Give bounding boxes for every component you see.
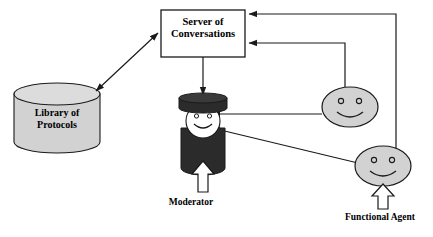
diagram-canvas: Server of Conversations Library of Proto…	[0, 0, 433, 237]
connector-library-server	[96, 33, 158, 91]
agent-lower-node	[355, 146, 411, 186]
server-of-conversations-node	[161, 10, 245, 57]
diagram-graphics	[0, 0, 433, 237]
connector-agent-lower-server	[249, 14, 396, 150]
agent-upper-node	[322, 87, 378, 127]
connector-agent-lower-moderator	[212, 128, 358, 163]
library-of-protocols-node	[14, 83, 100, 153]
connector-agent-upper-server	[249, 43, 345, 87]
functional-agent-input-hollow-arrow	[372, 184, 394, 209]
